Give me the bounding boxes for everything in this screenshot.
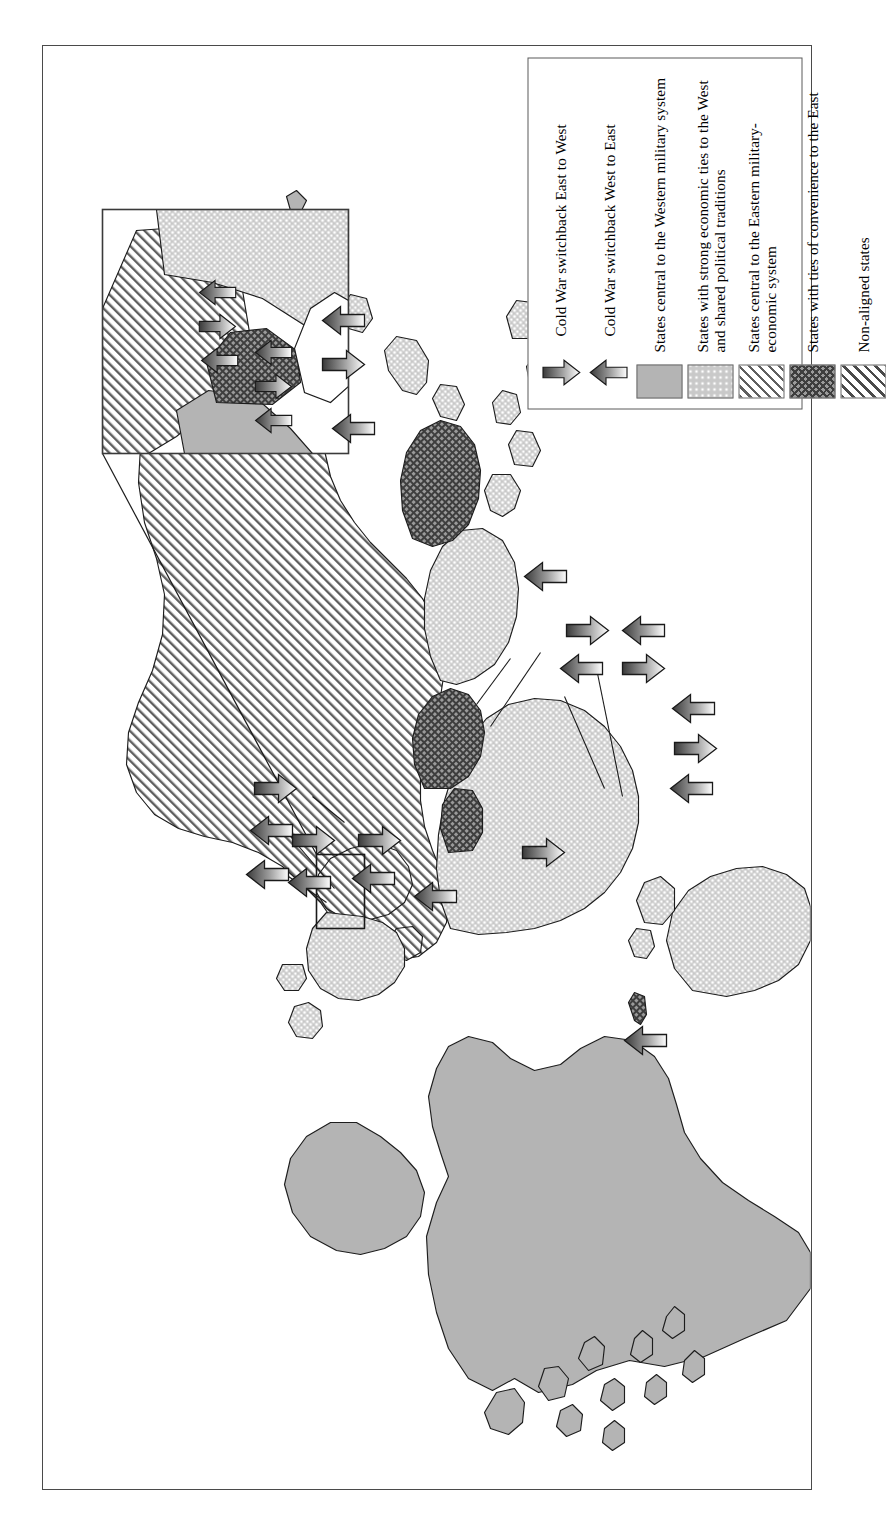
- arrow-up: [524, 562, 566, 590]
- region-north-america: [426, 1036, 810, 1450]
- legend-label: States central to the Eastern military-e…: [744, 66, 779, 352]
- legend-row-west-economic-ties: States with strong economic ties to the …: [687, 66, 733, 398]
- region-south-america: [628, 866, 810, 996]
- legend-label: Non-aligned states: [854, 237, 871, 352]
- arrow-down: [674, 734, 716, 762]
- legend-row-switchback-east-west: Cold War switchback East to West: [538, 66, 582, 398]
- legend-row-western-military: States central to the Western military s…: [636, 66, 682, 398]
- down-arrow-icon: [538, 346, 582, 398]
- figure-frame: Cold War switchback East to West: [42, 45, 812, 1490]
- arrow-up: [622, 616, 664, 644]
- arrow-down: [622, 654, 664, 682]
- arrow-down: [566, 616, 608, 644]
- legend-label: Cold War switchback West to East: [600, 124, 617, 336]
- region-greenland: [284, 1122, 424, 1254]
- swatch-diagonal-hatch-2: [840, 364, 886, 398]
- region-china: [400, 420, 480, 546]
- arrow-up: [560, 654, 602, 682]
- map-legend: Cold War switchback East to West: [527, 57, 802, 409]
- legend-row-east-convenience: States with ties of convenience to the E…: [789, 66, 835, 398]
- region-south-asia: [424, 528, 518, 684]
- map-scene: Cold War switchback East to West: [44, 47, 810, 1488]
- swatch-dark-crosshatch: [789, 364, 835, 398]
- swatch-solid-gray: [636, 364, 682, 398]
- region-japan: [340, 294, 464, 420]
- legend-row-non-aligned: Non-aligned states: [840, 66, 886, 398]
- up-arrow-icon: [587, 346, 631, 398]
- legend-label: States with ties of convenience to the E…: [803, 92, 820, 352]
- legend-label: States central to the Western military s…: [650, 77, 667, 352]
- region-cuba: [628, 992, 646, 1024]
- legend-label: States with strong economic ties to the …: [693, 66, 728, 352]
- legend-row-eastern-military: States central to the Eastern military-e…: [738, 66, 784, 398]
- legend-label: Cold War switchback East to West: [551, 124, 568, 336]
- legend-row-switchback-west-east: Cold War switchback West to East: [587, 66, 631, 398]
- swatch-diagonal-hatch: [738, 364, 784, 398]
- swatch-light-dots: [687, 364, 733, 398]
- region-western-europe: [276, 912, 404, 1038]
- arrow-up: [672, 694, 714, 722]
- arrow-up: [670, 774, 712, 802]
